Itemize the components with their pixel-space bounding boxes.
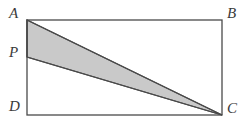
segment-pc (27, 57, 222, 115)
geometry-diagram-canvas: A B P D C (0, 0, 249, 131)
vertex-label-c: C (227, 101, 237, 116)
vertex-label-d: D (9, 99, 20, 114)
vertex-label-b: B (227, 6, 236, 21)
vertex-label-a: A (9, 6, 18, 21)
vertex-label-p: P (9, 45, 18, 60)
segment-ac (27, 20, 222, 115)
figure-svg (0, 0, 249, 131)
